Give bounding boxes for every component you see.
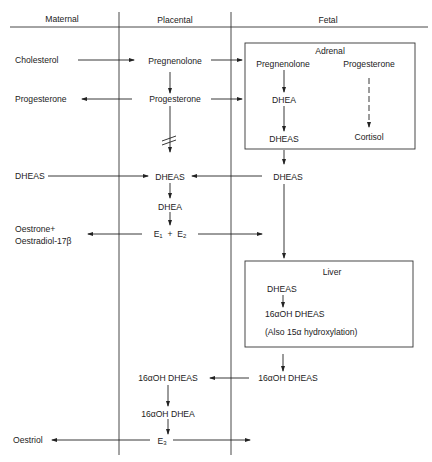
liver-note: (Also 15α hydroxylation) [265, 327, 357, 337]
adrenal-dheas: DHEAS [269, 134, 299, 144]
liver-title: Liver [323, 267, 342, 277]
maternal-oestrone: Oestrone+ [15, 224, 55, 234]
column-header-placental: Placental [157, 15, 192, 25]
placental-dhea: DHEA [158, 202, 182, 212]
placental-dheas: DHEAS [155, 172, 185, 182]
placental-progesterone: Progesterone [149, 94, 201, 104]
maternal-oestriol: Oestriol [13, 435, 43, 445]
adrenal-progesterone: Progesterone [343, 59, 395, 69]
placental-16aoh-dheas: 16αOH DHEAS [138, 373, 197, 383]
placental-16aoh-dhea: 16αOH DHEA [141, 409, 195, 419]
placental-e1-e2: E1 + E2 [154, 229, 187, 241]
liver-16aoh-dheas: 16αOH DHEAS [265, 309, 324, 319]
adrenal-pregnenolone: Pregnenolone [256, 59, 310, 69]
maternal-oestradiol: Oestradiol-17β [15, 236, 72, 246]
diagram-lines [0, 0, 432, 462]
adrenal-dhea: DHEA [272, 95, 296, 105]
adrenal-title: Adrenal [315, 46, 345, 56]
column-header-maternal: Maternal [45, 14, 78, 24]
fetal-dheas: DHEAS [273, 172, 303, 182]
maternal-cholesterol: Cholesterol [15, 55, 58, 65]
column-header-fetal: Fetal [318, 15, 337, 25]
placental-e3: E3 [157, 436, 166, 448]
maternal-progesterone: Progesterone [15, 94, 67, 104]
maternal-dheas: DHEAS [15, 171, 45, 181]
fetal-16aoh-dheas: 16αOH DHEAS [258, 373, 317, 383]
placental-pregnenolone: Pregnenolone [148, 56, 202, 66]
adrenal-cortisol: Cortisol [354, 132, 383, 142]
liver-dheas: DHEAS [267, 284, 297, 294]
